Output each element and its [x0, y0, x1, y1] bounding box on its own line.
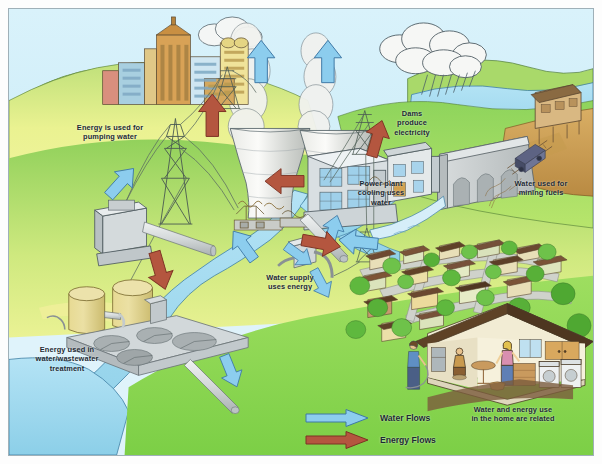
callout-dams: Dams produce electricity: [381, 109, 443, 137]
water-flow-arrow-icon: [304, 409, 370, 427]
callout-cooling: Power plant cooling uses water: [343, 179, 419, 207]
illustration-canvas: Energy is used for pumping water Dams pr…: [0, 0, 602, 464]
callout-mining: Water used for mining fuels: [495, 179, 587, 198]
legend: Water Flows Energy Flows: [304, 407, 484, 451]
energy-flow-arrow-icon: [304, 431, 370, 449]
illustration-frame: Energy is used for pumping water Dams pr…: [8, 8, 594, 456]
legend-row-water: Water Flows: [304, 407, 484, 429]
callout-water-supply: Water supply uses energy: [247, 273, 333, 292]
legend-label-water: Water Flows: [380, 413, 430, 423]
rain-cloud: [380, 23, 487, 78]
callout-pumping: Energy is used for pumping water: [55, 123, 165, 142]
callout-treatment: Energy used in water/wastewater treatmen…: [15, 345, 119, 373]
pumping-station: [95, 200, 153, 266]
treatment-tank-left: [69, 287, 105, 334]
legend-label-energy: Energy Flows: [380, 435, 436, 445]
scene-graphics: [9, 9, 593, 455]
legend-row-energy: Energy Flows: [304, 429, 484, 451]
